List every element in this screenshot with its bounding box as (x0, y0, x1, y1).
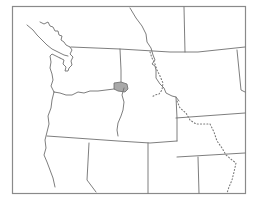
map-container: Pacific Northwest region map (0, 0, 259, 206)
map-frame (13, 7, 246, 194)
region-map (0, 0, 259, 206)
